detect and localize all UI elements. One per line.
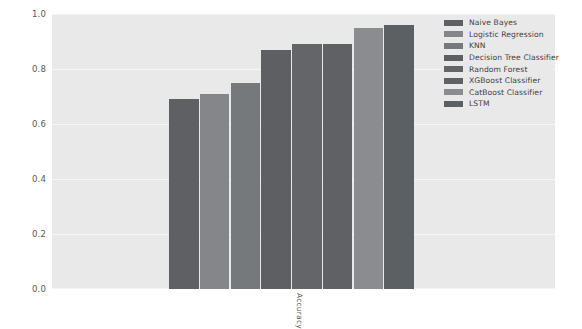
legend-swatch-icon bbox=[444, 101, 463, 107]
y-axis-tick-labels: 0.00.20.40.60.81.0 bbox=[0, 14, 46, 289]
legend-item[interactable]: Naive Bayes bbox=[444, 17, 551, 29]
legend-item[interactable]: KNN bbox=[444, 40, 551, 52]
legend-label: Naive Bayes bbox=[469, 18, 517, 27]
legend-label: Decision Tree Classifier bbox=[469, 53, 559, 62]
legend-item[interactable]: Decision Tree Classifier bbox=[444, 52, 551, 64]
legend-swatch-icon bbox=[444, 89, 463, 95]
legend-swatch-icon bbox=[444, 20, 463, 26]
y-tick-label: 1.0 bbox=[0, 9, 46, 19]
y-tick-label: 0.0 bbox=[0, 284, 46, 294]
legend-swatch-icon bbox=[444, 31, 463, 37]
bar bbox=[354, 28, 384, 289]
y-tick-label: 0.4 bbox=[0, 174, 46, 184]
bar bbox=[200, 94, 230, 289]
bar bbox=[384, 25, 414, 289]
legend-swatch-icon bbox=[444, 55, 463, 61]
bar bbox=[231, 83, 261, 289]
y-tick-label: 0.2 bbox=[0, 229, 46, 239]
legend-swatch-icon bbox=[444, 66, 463, 72]
legend-item[interactable]: LSTM bbox=[444, 98, 551, 110]
x-tick-label-accuracy: Accuracy bbox=[295, 293, 304, 329]
bar bbox=[261, 50, 291, 289]
legend-item[interactable]: Logistic Regression bbox=[444, 29, 551, 41]
legend-label: KNN bbox=[469, 41, 486, 50]
legend-label: Logistic Regression bbox=[469, 30, 544, 39]
legend-swatch-icon bbox=[444, 78, 463, 84]
y-tick-label: 0.6 bbox=[0, 119, 46, 129]
legend-item[interactable]: Random Forest bbox=[444, 63, 551, 75]
x-axis-tick-labels: Accuracy bbox=[52, 291, 555, 328]
legend-item[interactable]: XGBoost Classifier bbox=[444, 75, 551, 87]
legend-item[interactable]: CatBoost Classifier bbox=[444, 87, 551, 99]
legend-label: CatBoost Classifier bbox=[469, 88, 542, 97]
bar bbox=[292, 44, 322, 289]
chart-legend: Naive BayesLogistic RegressionKNNDecisio… bbox=[441, 15, 553, 113]
legend-label: LSTM bbox=[469, 99, 490, 108]
legend-label: XGBoost Classifier bbox=[469, 76, 540, 85]
legend-swatch-icon bbox=[444, 43, 463, 49]
legend-label: Random Forest bbox=[469, 65, 527, 74]
y-tick-label: 0.8 bbox=[0, 64, 46, 74]
bar bbox=[323, 44, 353, 289]
bar bbox=[169, 99, 199, 289]
